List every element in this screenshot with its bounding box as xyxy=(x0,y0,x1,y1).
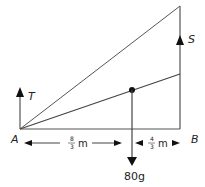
dim-right-arrowhead-right-icon xyxy=(172,140,180,146)
label-b: B xyxy=(191,133,199,146)
dim-left-arrowhead-right-icon xyxy=(114,140,122,146)
dim-right-numerator: 4 xyxy=(150,135,154,142)
label-t: T xyxy=(28,90,36,103)
middle-diagonal xyxy=(20,74,180,129)
label-weight: 80g xyxy=(124,170,145,183)
dim-left-unit: m xyxy=(78,138,88,149)
label-a: A xyxy=(10,133,19,146)
upper-diagonal xyxy=(20,6,180,129)
dim-right-arrowhead-left-icon xyxy=(135,140,143,146)
force-s-arrowhead-icon xyxy=(176,35,184,45)
dim-left-denominator: 3 xyxy=(70,143,74,150)
dim-left-arrowhead-left-icon xyxy=(24,140,32,146)
beam-force-diagram: T S A B 80g 8 3 m 4 3 m xyxy=(0,0,205,187)
dim-right-denominator: 3 xyxy=(150,143,154,150)
tension-t-arrowhead-icon xyxy=(16,87,24,97)
label-s: S xyxy=(188,33,195,46)
dim-right-unit: m xyxy=(158,138,168,149)
dim-left-numerator: 8 xyxy=(70,135,74,142)
weight-arrowhead-icon xyxy=(127,157,137,166)
